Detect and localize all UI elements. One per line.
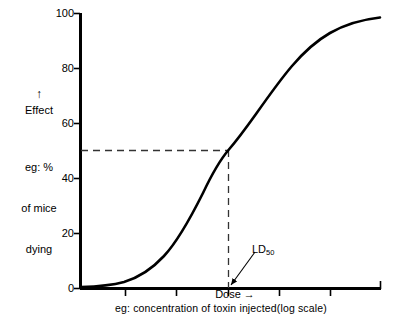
x-axis-sublabel: eg: concentration of toxin injected(log … bbox=[56, 302, 386, 314]
y-axis-sublabel: eg: % of mice dying bbox=[8, 133, 70, 284]
y-axis-sublabel-line-1: eg: % bbox=[8, 161, 70, 175]
y-tick-label-100: 100 bbox=[48, 7, 74, 20]
ld50-leader-line bbox=[231, 252, 255, 285]
ld50-annotation: LD50 bbox=[252, 243, 274, 256]
ld50-annotation-subscript: 50 bbox=[266, 248, 274, 257]
ld50-annotation-label: LD bbox=[252, 243, 266, 255]
effect-up-arrow-icon: ↑ bbox=[8, 88, 70, 102]
y-tick-label-60: 60 bbox=[48, 117, 74, 130]
y-axis-sublabel-line-2: of mice bbox=[8, 202, 70, 216]
dose-response-chart: 100 80 60 40 20 0 ↑ Effect eg: % of mice… bbox=[0, 0, 396, 320]
y-axis-sublabel-line-3: dying bbox=[8, 243, 70, 257]
x-axis-label: Dose → bbox=[190, 288, 280, 301]
y-axis-label: Effect bbox=[8, 104, 70, 117]
dose-response-curve bbox=[81, 18, 380, 288]
y-tick-label-80: 80 bbox=[48, 62, 74, 75]
